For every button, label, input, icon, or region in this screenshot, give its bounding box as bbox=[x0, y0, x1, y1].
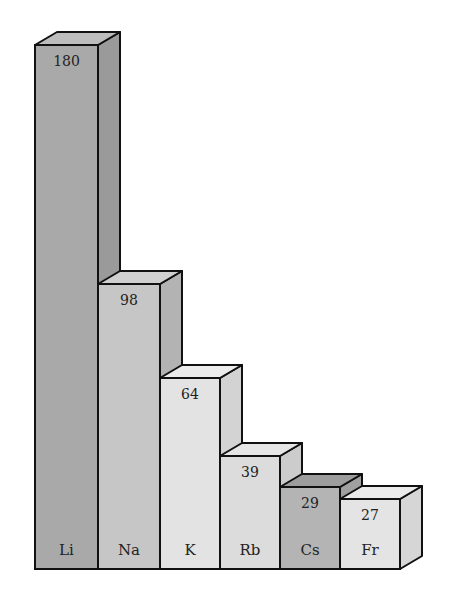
bar-value-label: 27 bbox=[361, 507, 379, 523]
bar-value-label: 39 bbox=[241, 464, 259, 480]
bar-side-face bbox=[400, 486, 422, 569]
bars-layer: 180Li98Na64K39Rb29Cs27Fr bbox=[35, 32, 422, 569]
bar-value-label: 98 bbox=[120, 292, 138, 308]
bar-value-label: 180 bbox=[53, 53, 80, 69]
bar-category-label: Fr bbox=[361, 541, 379, 559]
bar-category-label: K bbox=[184, 541, 196, 559]
bar-front-face bbox=[98, 284, 160, 569]
bar-value-label: 64 bbox=[181, 386, 199, 402]
bar-chart: 180Li98Na64K39Rb29Cs27Fr bbox=[0, 0, 452, 594]
bar-category-label: Na bbox=[118, 541, 140, 559]
bar-category-label: Rb bbox=[240, 541, 261, 559]
bar-fr: 27Fr bbox=[340, 486, 422, 569]
bar-category-label: Cs bbox=[300, 541, 319, 559]
bar-category-label: Li bbox=[59, 541, 74, 559]
bar-front-face bbox=[35, 45, 98, 569]
bar-value-label: 29 bbox=[301, 495, 319, 511]
